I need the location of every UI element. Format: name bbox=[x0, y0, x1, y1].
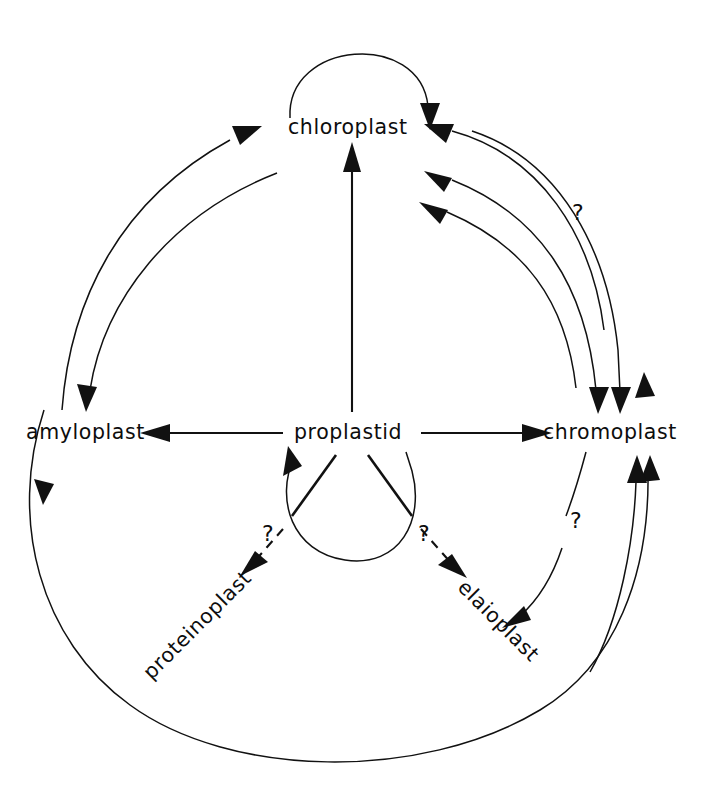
edge-chloroplast-to-chromoplast bbox=[472, 131, 620, 392]
edge-proplastid-self-loop bbox=[286, 452, 415, 561]
edge-chloroplast-to-amyloplast bbox=[90, 173, 277, 390]
edge-proplastid-to-elaioplast bbox=[368, 455, 412, 516]
edge-chromoplast-to-elaioplast bbox=[566, 452, 586, 516]
arrowhead-proplastid-self-loop bbox=[283, 446, 302, 476]
arrowhead-chloroplast-middle-arc bbox=[424, 171, 452, 192]
edge-elaioplast-to-chromoplast bbox=[590, 482, 636, 672]
arrowhead-chloroplast-inner-arc bbox=[419, 202, 448, 224]
edge-chromoplast-to-elaioplast-lower bbox=[520, 548, 562, 616]
annotation-question-mark-upper-right: ? bbox=[572, 200, 584, 225]
edge-chloroplast-self-loop bbox=[290, 54, 428, 118]
arrowhead-elaioplast bbox=[438, 554, 467, 578]
node-label-amyloplast[interactable]: amyloplast bbox=[26, 420, 145, 444]
arrowhead-chromoplast-middle-down bbox=[589, 387, 609, 414]
arrowhead-amyloplast-from-chloroplast bbox=[77, 384, 97, 412]
plastid-diagram: chloroplast amyloplast proplastid chromo… bbox=[0, 0, 702, 788]
arrowhead-chromoplast-from-elaioplast bbox=[627, 455, 647, 483]
annotation-question-mark-elaioplast: ? bbox=[418, 521, 430, 546]
node-label-proplastid[interactable]: proplastid bbox=[294, 420, 402, 444]
annotation-question-mark-proteinoplast: ? bbox=[262, 521, 274, 546]
arrowhead-chromoplast-from-chloroplast bbox=[611, 387, 631, 414]
node-label-chloroplast[interactable]: chloroplast bbox=[288, 115, 408, 139]
arrowhead-outer-circle-amyloplast bbox=[34, 479, 54, 505]
edge-amyloplast-to-chromoplast-outer bbox=[30, 410, 649, 762]
edge-chromoplast-to-chloroplast-inner bbox=[447, 212, 576, 388]
edge-amyloplast-to-chloroplast bbox=[62, 140, 230, 410]
arrowhead-chloroplast-from-proplastid bbox=[343, 142, 361, 172]
annotation-question-mark-lower-right: ? bbox=[570, 508, 582, 533]
node-label-chromoplast[interactable]: chromoplast bbox=[543, 420, 677, 444]
arrowhead-chloroplast-from-amyloplast bbox=[232, 126, 262, 145]
arrowhead-chloroplast-incoming-right bbox=[424, 124, 454, 143]
arrowhead-chromoplast-up-out bbox=[635, 372, 655, 398]
